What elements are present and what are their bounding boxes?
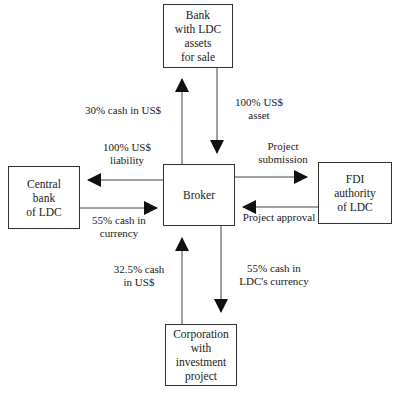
edge-label-broker-to-fdi: Project submission <box>248 140 318 166</box>
node-bank-label: Bank with LDC assets for sale <box>175 8 221 64</box>
edge-label-bank-to-broker: 100% US$ asset <box>224 96 294 122</box>
edge-label-broker-to-corp: 55% cash in LDC's currency <box>232 262 316 288</box>
node-bank: Bank with LDC assets for sale <box>163 4 233 68</box>
node-corporation-label: Corporation with investment project <box>173 327 229 383</box>
node-broker-label: Broker <box>183 188 215 202</box>
node-broker: Broker <box>163 164 235 226</box>
node-central-bank: Central bank of LDC <box>8 166 80 229</box>
node-central-bank-label: Central bank of LDC <box>26 177 61 219</box>
edge-label-central-to-broker: 55% cash in currency <box>84 214 154 240</box>
node-fdi: FDI authority of LDC <box>318 162 392 224</box>
edge-label-fdi-to-broker: Project approval <box>237 211 321 224</box>
node-corporation: Corporation with investment project <box>165 324 237 386</box>
edge-label-broker-to-bank: 30% cash in US$ <box>68 104 178 117</box>
edge-label-broker-to-central: 100% US$ liability <box>92 141 162 167</box>
node-fdi-label: FDI authority of LDC <box>334 172 376 214</box>
edge-label-corp-to-broker: 32.5% cash in US$ <box>104 263 174 289</box>
